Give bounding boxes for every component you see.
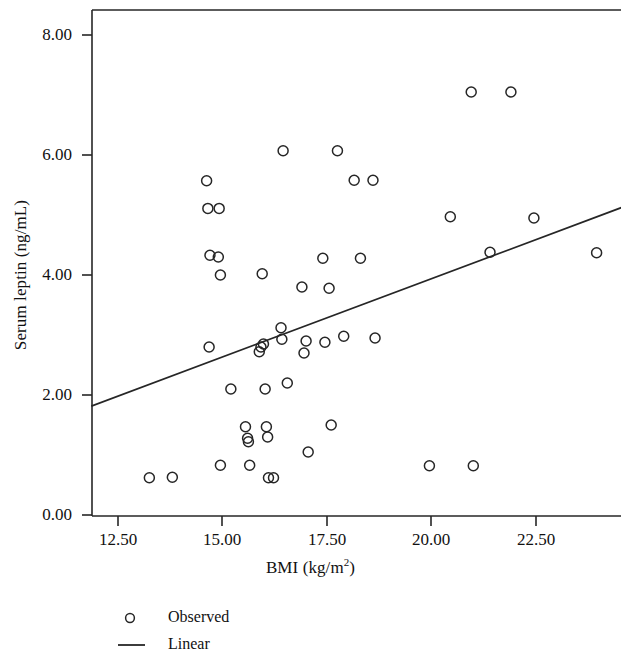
x-axis-ticks — [118, 516, 536, 526]
y-tick-label-2: 2.00 — [8, 385, 72, 405]
data-point — [339, 331, 349, 341]
data-point — [240, 422, 250, 432]
data-point — [506, 87, 516, 97]
legend-glyphs — [118, 614, 145, 645]
data-point — [257, 269, 267, 279]
data-point — [301, 336, 311, 346]
x-tick-label-15-00: 15.00 — [172, 530, 272, 550]
data-point — [318, 253, 328, 263]
data-point — [278, 146, 288, 156]
data-point — [326, 420, 336, 430]
x-axis-title-base: BMI (kg/m — [266, 558, 344, 577]
legend-label-linear: Linear — [168, 635, 210, 653]
data-point — [303, 447, 313, 457]
y-axis-ticks — [82, 35, 92, 515]
data-point — [167, 472, 177, 482]
data-point — [445, 212, 455, 222]
data-point — [276, 323, 286, 333]
x-tick-label-12-50: 12.50 — [68, 530, 168, 550]
data-point — [424, 461, 434, 471]
data-point — [277, 334, 287, 344]
data-point — [204, 342, 214, 352]
data-point — [370, 333, 380, 343]
data-point — [258, 339, 268, 349]
data-point — [299, 348, 309, 358]
x-tick-label-20-00: 20.00 — [381, 530, 481, 550]
data-point — [260, 384, 270, 394]
data-point — [245, 460, 255, 470]
data-point — [202, 176, 212, 186]
y-tick-label-0: 0.00 — [8, 505, 72, 525]
data-point — [320, 337, 330, 347]
data-point — [466, 87, 476, 97]
y-tick-label-8: 8.00 — [8, 25, 72, 45]
x-tick-label-17-50: 17.50 — [277, 530, 377, 550]
data-point — [263, 432, 273, 442]
data-point — [144, 473, 154, 483]
data-point — [215, 460, 225, 470]
x-tick-label-22-50: 22.50 — [486, 530, 586, 550]
data-point — [226, 384, 236, 394]
y-tick-label-4: 4.00 — [8, 265, 72, 285]
scatter-plot-figure: Serum leptin (ng/mL) BMI (kg/m2) — [0, 0, 621, 653]
data-point — [261, 422, 271, 432]
data-point — [332, 146, 342, 156]
data-point — [592, 248, 602, 258]
legend-observed-marker-icon — [126, 614, 135, 623]
observed-data-points — [144, 87, 601, 483]
data-point — [282, 378, 292, 388]
linear-regression-line — [92, 208, 621, 406]
data-point — [297, 282, 307, 292]
data-point — [349, 175, 359, 185]
data-point — [203, 203, 213, 213]
data-point — [485, 247, 495, 257]
data-point — [214, 203, 224, 213]
data-point — [215, 270, 225, 280]
data-point — [468, 461, 478, 471]
data-point — [355, 253, 365, 263]
legend-label-observed: Observed — [168, 608, 229, 626]
y-tick-label-6: 6.00 — [8, 145, 72, 165]
axis-spines — [92, 10, 621, 516]
x-axis-title: BMI (kg/m2) — [0, 556, 621, 578]
data-point — [368, 175, 378, 185]
x-axis-title-tail: ) — [349, 558, 355, 577]
data-point — [529, 213, 539, 223]
data-point — [324, 283, 334, 293]
